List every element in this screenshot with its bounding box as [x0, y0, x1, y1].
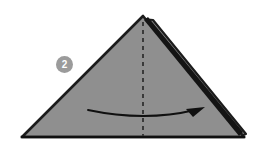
step-number-badge: 2: [56, 56, 73, 73]
folded-paper-triangle: [22, 16, 244, 137]
origami-figure: [0, 0, 262, 147]
origami-step-diagram: 2: [0, 0, 262, 147]
